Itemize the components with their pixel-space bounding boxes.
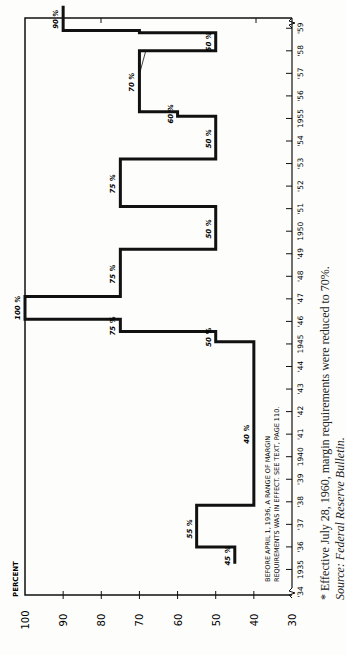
percent-tick-label: 100 — [20, 610, 31, 629]
value-annotation: 50 % — [205, 32, 213, 51]
axis-break-icon — [289, 588, 295, 598]
year-tick-label: '43 — [296, 383, 305, 395]
year-tick-label: '44 — [296, 360, 305, 372]
source-note: Source: Federal Reserve Bulletin. — [333, 437, 347, 600]
percent-tick-label: 40 — [249, 614, 260, 627]
chart-note-line1: BEFORE APRIL 1, 1936, A RANGE OF MARGIN — [264, 436, 272, 582]
value-annotation: 75 % — [109, 174, 117, 193]
year-tick-label: '49 — [296, 248, 305, 260]
value-annotation: 90 % — [52, 10, 60, 29]
chart-frame — [25, 18, 292, 595]
year-tick-label: 1940 — [296, 447, 305, 466]
value-annotation: 70 % — [128, 73, 136, 92]
value-annotation: 50 % — [205, 328, 213, 347]
year-tick-label: 1950 — [296, 221, 305, 240]
value-annotation: 50 % — [205, 129, 213, 148]
percent-tick-label: 80 — [96, 614, 107, 627]
percent-tick-label: 50 — [211, 614, 222, 627]
margin-step-line — [25, 6, 254, 564]
percent-tick-label: 90 — [58, 614, 69, 627]
year-tick-label: '53 — [296, 158, 305, 170]
year-tick-label: '37 — [296, 518, 305, 530]
percent-tick-label: 70 — [134, 614, 145, 627]
value-annotation: 55 % — [186, 519, 194, 538]
value-annotation: 100 % — [14, 296, 22, 320]
year-tick-label: '38 — [296, 496, 305, 508]
year-tick-label: '58 — [296, 45, 305, 57]
year-tick-label: '48 — [296, 270, 305, 282]
y-axis-label: PERCENT — [12, 561, 20, 597]
chart-note-line2: REQUIREMENTS WAS IN EFFECT. SEE TEXT, PA… — [273, 407, 281, 582]
year-tick-label: '54 — [296, 135, 305, 147]
year-tick-label: '42 — [296, 406, 305, 418]
value-annotation: 50 % — [205, 219, 213, 238]
value-annotation: 75 % — [109, 264, 117, 283]
year-tick-label: '51 — [296, 203, 305, 215]
year-tick-label: '47 — [296, 293, 305, 305]
footnote: * Effective July 28, 1960, margin requir… — [318, 266, 333, 600]
value-annotation: 75 % — [109, 316, 117, 335]
year-tick-label: '46 — [296, 315, 305, 327]
year-tick-label: '57 — [296, 67, 305, 79]
year-tick-label: '59 — [296, 22, 305, 34]
value-annotation: 60 % — [167, 104, 175, 123]
year-tick-label: 1935 — [296, 560, 305, 579]
value-annotation: 45 % — [224, 546, 232, 565]
percent-tick-label: 60 — [173, 614, 184, 627]
margin-requirements-chart: 10090807060504030PERCENT'341935'36'37'38… — [0, 0, 347, 655]
year-tick-label: 1955 — [296, 109, 305, 128]
percent-tick-label: 30 — [287, 614, 298, 627]
year-tick-label: '39 — [296, 473, 305, 485]
year-tick-label: '41 — [296, 428, 305, 440]
year-tick-label: 1945 — [296, 334, 305, 353]
value-annotation: 40 % — [243, 425, 251, 444]
year-tick-label: '56 — [296, 90, 305, 102]
year-tick-label: '52 — [296, 180, 305, 192]
year-tick-label: '34 — [296, 586, 305, 598]
year-tick-label: '36 — [296, 541, 305, 553]
